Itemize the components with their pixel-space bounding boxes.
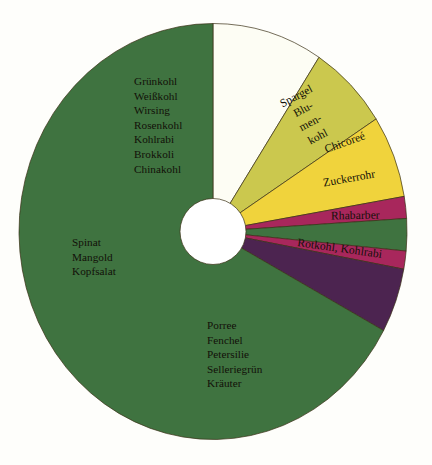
pie-chart-figure: Grünkohl Weißkohl Wirsing Rosenkohl Kohl… bbox=[0, 0, 432, 465]
pie-chart-svg bbox=[0, 0, 432, 465]
donut-center-hole bbox=[180, 199, 246, 265]
